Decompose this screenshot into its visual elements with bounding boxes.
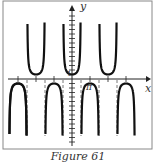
y-tick-1: 1 — [67, 70, 71, 78]
figure-frame — [3, 1, 152, 149]
figure-caption: Figure 61 — [0, 150, 156, 163]
x-axis-label: x — [145, 82, 152, 95]
y-axis-label: y — [79, 0, 87, 13]
y-axis-arrow-icon — [69, 5, 75, 11]
secant-graph: y x π 1 — [0, 0, 156, 150]
x-tick-pi: π — [85, 82, 93, 92]
